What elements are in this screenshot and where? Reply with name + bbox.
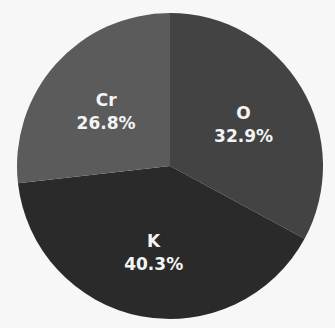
slice-percent-k: 40.3%: [124, 254, 183, 274]
slice-label-o: O: [236, 103, 250, 123]
pie-slice-cr: [17, 13, 170, 183]
slice-label-k: K: [147, 231, 161, 251]
slice-label-cr: Cr: [96, 90, 117, 110]
pie-chart: O32.9%K40.3%Cr26.8%: [0, 0, 335, 328]
slice-percent-o: 32.9%: [214, 126, 273, 146]
slice-percent-cr: 26.8%: [77, 113, 136, 133]
